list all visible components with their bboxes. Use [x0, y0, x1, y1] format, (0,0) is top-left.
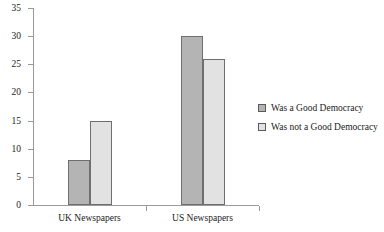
- y-axis-tick: 25: [28, 64, 33, 65]
- y-axis-tick: 35: [28, 8, 33, 9]
- bar-chart: 05101520253035 UK NewspapersUS Newspaper…: [0, 0, 384, 232]
- bar: [181, 36, 203, 205]
- legend-item: Was not a Good Democracy: [258, 119, 384, 135]
- x-axis-category-label: US Newspapers: [153, 212, 253, 224]
- x-axis-tick: [146, 206, 147, 211]
- chart-legend: Was a Good DemocracyWas not a Good Democ…: [258, 100, 384, 138]
- x-axis-tick: [259, 206, 260, 211]
- bar: [90, 121, 112, 205]
- y-axis-tick: 15: [28, 121, 33, 122]
- y-axis-tick-label: 30: [12, 28, 22, 44]
- legend-swatch-icon: [258, 123, 266, 131]
- y-axis-tick: 10: [28, 149, 33, 150]
- y-axis-tick-label: 35: [12, 0, 22, 16]
- x-axis-category-label: UK Newspapers: [40, 212, 140, 224]
- y-axis-tick-label: 20: [12, 84, 22, 100]
- y-axis-tick-label: 25: [12, 56, 22, 72]
- legend-item: Was a Good Democracy: [258, 100, 384, 116]
- legend-swatch-icon: [258, 104, 266, 112]
- plot-area: 05101520253035: [33, 8, 259, 206]
- y-axis-tick: 5: [28, 177, 33, 178]
- y-axis-tick: 0: [28, 205, 33, 206]
- y-axis-tick-label: 10: [12, 141, 22, 157]
- legend-item-label: Was a Good Democracy: [271, 103, 363, 114]
- legend-item-label: Was not a Good Democracy: [271, 122, 378, 133]
- bar: [203, 59, 225, 205]
- bar: [68, 160, 90, 205]
- y-axis-tick-label: 0: [16, 197, 21, 213]
- y-axis-tick-label: 15: [12, 113, 22, 129]
- y-axis-tick: 30: [28, 36, 33, 37]
- y-axis-line: [33, 8, 34, 206]
- y-axis-tick-label: 5: [16, 169, 21, 185]
- y-axis-tick: 20: [28, 92, 33, 93]
